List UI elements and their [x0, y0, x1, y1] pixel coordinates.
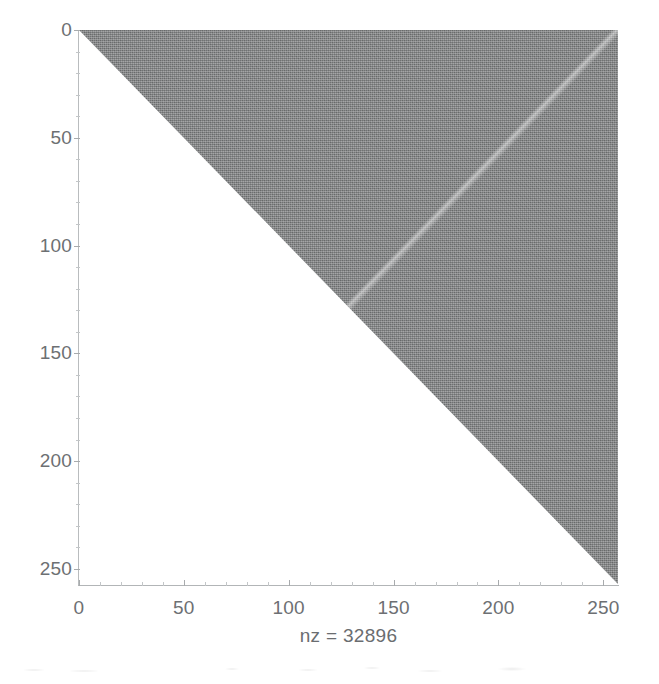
x-axis-tick: [498, 580, 499, 586]
x-axis-tick-label: 50: [144, 598, 224, 617]
x-axis-minor-tick: [415, 582, 416, 586]
y-axis-tick: [74, 246, 80, 247]
x-axis-minor-tick: [268, 582, 269, 586]
y-axis-tick: [74, 569, 80, 570]
y-axis-tick: [74, 30, 80, 31]
x-axis-minor-tick: [310, 582, 311, 586]
y-axis-tick-label: 150: [14, 343, 72, 362]
y-axis-minor-tick: [76, 440, 80, 441]
x-axis-tick-label: 150: [354, 598, 434, 617]
y-axis-tick-label: 0: [14, 20, 72, 39]
y-axis-minor-tick: [76, 289, 80, 290]
x-axis-minor-tick: [142, 582, 143, 586]
x-axis-minor-tick: [352, 582, 353, 586]
x-axis-minor-tick: [205, 582, 206, 586]
x-axis-tick-label: 250: [563, 598, 643, 617]
x-axis-minor-tick: [477, 582, 478, 586]
y-axis-minor-tick: [76, 418, 80, 419]
y-axis-tick: [74, 461, 80, 462]
y-axis-minor-tick: [76, 181, 80, 182]
y-axis-minor-tick: [76, 52, 80, 53]
x-axis-tick-labels: 050100150200250: [0, 598, 659, 624]
y-axis-tick: [74, 353, 80, 354]
y-axis-minor-tick: [76, 504, 80, 505]
x-axis-minor-tick: [373, 582, 374, 586]
x-axis-minor-tick: [561, 582, 562, 586]
y-axis-minor-tick: [76, 547, 80, 548]
x-axis-tick-label: 200: [458, 598, 538, 617]
x-axis-minor-tick: [436, 582, 437, 586]
x-axis-tick: [289, 580, 290, 586]
x-axis-minor-tick: [226, 582, 227, 586]
x-axis-tick-label: 100: [249, 598, 329, 617]
x-axis-minor-tick: [540, 582, 541, 586]
x-axis-tick: [184, 580, 185, 586]
x-axis-tick: [394, 580, 395, 586]
y-axis-minor-tick: [76, 116, 80, 117]
y-axis-tick-label: 200: [14, 451, 72, 470]
plot-area: [79, 30, 618, 584]
y-axis-minor-tick: [76, 73, 80, 74]
sparsity-dither-texture: [79, 30, 618, 584]
y-axis-minor-tick: [76, 95, 80, 96]
y-axis-tick-label: 50: [14, 128, 72, 147]
spy-plot-figure: 050100150200250 050100150200250 nz = 328…: [0, 0, 659, 684]
y-axis-minor-tick: [76, 202, 80, 203]
x-axis-minor-tick: [100, 582, 101, 586]
y-axis-tick-label: 250: [14, 559, 72, 578]
x-axis-minor-tick: [457, 582, 458, 586]
x-axis-minor-tick: [331, 582, 332, 586]
x-axis-minor-tick: [247, 582, 248, 586]
y-axis-tick-labels: 050100150200250: [8, 0, 72, 684]
x-axis-line: [78, 585, 619, 586]
scan-artifacts: [0, 662, 659, 684]
y-axis-minor-tick: [76, 310, 80, 311]
x-axis-minor-tick: [121, 582, 122, 586]
y-axis-minor-tick: [76, 375, 80, 376]
x-axis-minor-tick: [163, 582, 164, 586]
x-axis-tick: [79, 580, 80, 586]
y-axis-line: [78, 30, 79, 586]
x-axis-minor-tick: [582, 582, 583, 586]
y-axis-minor-tick: [76, 267, 80, 268]
y-axis-minor-tick: [76, 483, 80, 484]
x-axis-tick-label: 0: [39, 598, 119, 617]
sparsity-pattern: [79, 30, 618, 584]
y-axis-minor-tick: [76, 224, 80, 225]
x-axis-tick: [603, 580, 604, 586]
x-axis-minor-tick: [519, 582, 520, 586]
y-axis-tick-label: 100: [14, 236, 72, 255]
y-axis-minor-tick: [76, 159, 80, 160]
y-axis-minor-tick: [76, 396, 80, 397]
y-axis-minor-tick: [76, 332, 80, 333]
y-axis-tick: [74, 138, 80, 139]
y-axis-minor-tick: [76, 526, 80, 527]
x-axis-label-nz: nz = 32896: [79, 626, 618, 646]
